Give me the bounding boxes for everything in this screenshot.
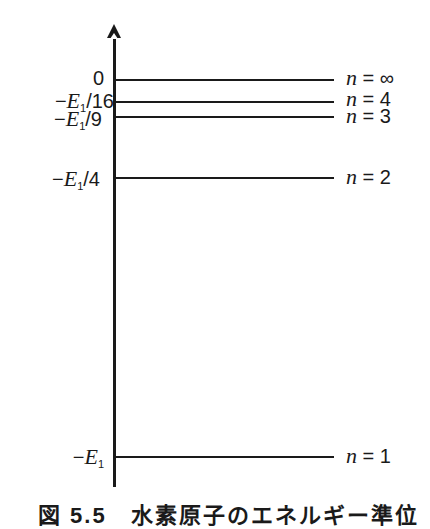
arrow-notch (110, 33, 118, 39)
minus-sign: − (73, 446, 85, 468)
divisor: /4 (83, 168, 100, 190)
equals: = (357, 105, 380, 127)
quantum-value: 2 (380, 166, 391, 188)
quantum-label-1: n = 1 (346, 446, 391, 466)
energy-symbol: E (66, 106, 79, 131)
energy-symbol: E (64, 166, 77, 191)
equals: = (357, 445, 380, 467)
energy-value: 0 (93, 67, 104, 89)
quantum-value: 1 (380, 445, 391, 467)
divisor: /9 (85, 108, 102, 130)
subscript: 1 (98, 458, 104, 470)
energy-symbol: E (84, 444, 97, 469)
equals: = (357, 67, 380, 89)
quantum-label-2: n = 2 (346, 167, 391, 187)
equals: = (357, 166, 380, 188)
level-line-n-inf (116, 79, 334, 81)
quantum-label-3: n = 3 (346, 106, 391, 126)
minus-sign: − (52, 168, 64, 190)
n-symbol: n (346, 164, 357, 189)
figure-caption: 図 5.5 水素原子のエネルギー準位 (38, 497, 419, 529)
n-symbol: n (346, 103, 357, 128)
quantum-label-inf: n = ∞ (346, 68, 394, 88)
energy-label-e1-4: −E1/4 (52, 169, 100, 196)
energy-label-e1: −E1 (73, 447, 104, 474)
energy-label-e1-9: −E1/9 (54, 109, 102, 136)
n-symbol: n (346, 443, 357, 468)
minus-sign: − (54, 108, 66, 130)
quantum-value: ∞ (380, 67, 394, 89)
level-line-n-4 (116, 101, 334, 103)
quantum-value: 3 (380, 105, 391, 127)
energy-label-0: 0 (93, 68, 104, 88)
level-line-n-1 (116, 456, 334, 458)
level-line-n-2 (116, 177, 334, 179)
level-line-n-3 (116, 116, 334, 118)
